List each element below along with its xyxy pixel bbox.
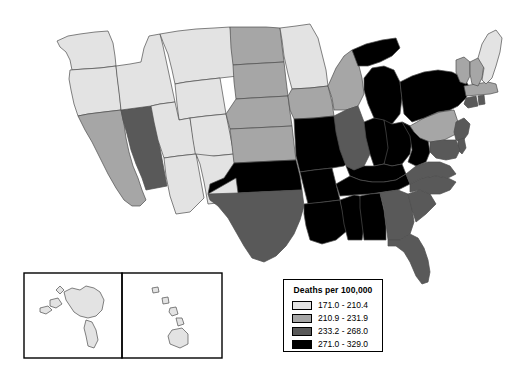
us-map-svg bbox=[0, 0, 506, 384]
legend-label-1: 210.9 - 231.9 bbox=[318, 313, 368, 323]
legend-row: 210.9 - 231.9 bbox=[284, 312, 382, 324]
state-HI[interactable] bbox=[152, 287, 188, 348]
legend-label-2: 233.2 - 268.0 bbox=[318, 326, 368, 336]
hawaii-inset bbox=[152, 287, 188, 348]
state-MA[interactable] bbox=[464, 82, 498, 96]
state-ND[interactable] bbox=[230, 27, 284, 65]
legend-swatch-2 bbox=[292, 327, 312, 336]
state-FL[interactable] bbox=[388, 234, 430, 284]
legend-label-0: 171.0 - 210.4 bbox=[318, 300, 368, 310]
legend-row: 233.2 - 268.0 bbox=[284, 325, 382, 337]
legend-label-3: 271.0 - 329.0 bbox=[318, 339, 368, 349]
state-AR[interactable] bbox=[300, 168, 340, 204]
state-NE[interactable] bbox=[226, 96, 292, 129]
state-KS[interactable] bbox=[230, 126, 296, 163]
inset-boxes bbox=[24, 273, 222, 358]
map-legend: Deaths per 100,000 171.0 - 210.4 210.9 -… bbox=[283, 279, 383, 352]
state-IA[interactable] bbox=[288, 86, 334, 119]
legend-row: 271.0 - 329.0 bbox=[284, 338, 382, 350]
legend-title: Deaths per 100,000 bbox=[284, 285, 382, 295]
state-MD[interactable] bbox=[430, 140, 460, 160]
alaska-inset-frame bbox=[24, 273, 122, 358]
state-WY[interactable] bbox=[175, 78, 226, 120]
state-SD[interactable] bbox=[233, 62, 288, 99]
contiguous-states bbox=[57, 24, 502, 284]
state-WA[interactable] bbox=[57, 31, 116, 70]
choropleth-map: Deaths per 100,000 171.0 - 210.4 210.9 -… bbox=[0, 0, 506, 384]
legend-swatch-1 bbox=[292, 314, 312, 323]
state-OR[interactable] bbox=[69, 66, 121, 116]
legend-row: 171.0 - 210.4 bbox=[284, 299, 382, 311]
alaska-inset bbox=[40, 286, 104, 348]
state-CT[interactable] bbox=[464, 96, 478, 108]
legend-swatch-0 bbox=[292, 301, 312, 310]
state-AK[interactable] bbox=[40, 286, 104, 348]
state-AZ[interactable] bbox=[164, 154, 204, 214]
legend-swatch-3 bbox=[292, 340, 312, 349]
state-TX[interactable] bbox=[208, 190, 304, 262]
state-MN[interactable] bbox=[280, 24, 328, 89]
state-RI[interactable] bbox=[478, 95, 485, 105]
state-MT[interactable] bbox=[160, 27, 238, 84]
